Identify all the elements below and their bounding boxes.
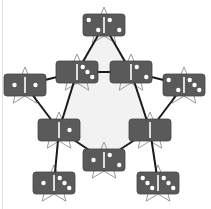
pip-icon	[166, 181, 170, 185]
pip-icon	[117, 163, 121, 167]
pip-icon	[192, 83, 196, 87]
domino-divider	[183, 77, 185, 93]
pip-icon	[188, 78, 192, 82]
pip-icon	[162, 176, 166, 180]
pip-icon	[96, 28, 100, 32]
pip-icon	[91, 158, 95, 162]
pip-icon	[108, 18, 112, 22]
pip-icon	[144, 75, 148, 79]
pip-icon	[41, 181, 45, 185]
domino-diagram	[0, 0, 211, 209]
pip-icon	[67, 186, 71, 190]
pip-icon	[171, 186, 175, 190]
domino-outer-left[interactable]	[4, 74, 46, 96]
pip-icon	[33, 83, 37, 87]
domino-divider	[130, 64, 132, 80]
pip-icon	[87, 18, 91, 22]
domino-divider	[103, 152, 105, 168]
domino-divider	[58, 122, 60, 138]
domino-divider	[53, 175, 55, 191]
pip-icon	[145, 181, 149, 185]
pip-icon	[150, 186, 154, 190]
pip-icon	[167, 78, 171, 82]
domino-divider	[149, 122, 151, 138]
pip-icon	[197, 88, 201, 92]
domino-inner-right[interactable]	[110, 61, 152, 83]
domino-mid-right[interactable]	[129, 119, 171, 141]
domino-bottom-right[interactable]	[137, 172, 179, 194]
pip-icon	[85, 70, 89, 74]
pip-icon	[62, 181, 66, 185]
pip-icon	[90, 75, 94, 79]
pip-icon	[108, 153, 112, 157]
domino-bottom-left[interactable]	[33, 172, 75, 194]
domino-inner-left[interactable]	[56, 61, 98, 83]
pip-icon	[135, 65, 139, 69]
pip-icon	[176, 88, 180, 92]
domino-mid-left[interactable]	[38, 119, 80, 141]
domino-bottom-center[interactable]	[83, 149, 125, 171]
domino-outer-right[interactable]	[163, 74, 205, 96]
pip-icon	[58, 176, 62, 180]
pip-icon	[81, 65, 85, 69]
pip-icon	[117, 28, 121, 32]
pip-icon	[12, 83, 16, 87]
pip-icon	[141, 176, 145, 180]
domino-divider	[24, 77, 26, 93]
domino-top[interactable]	[83, 14, 125, 36]
domino-divider	[76, 64, 78, 80]
pip-icon	[67, 128, 71, 132]
domino-divider	[103, 17, 105, 33]
domino-divider	[157, 175, 159, 191]
